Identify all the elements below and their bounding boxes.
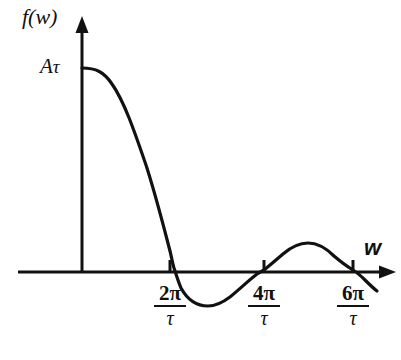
- sinc-function-figure: f(w) Aτ w 2π τ 4π τ 6π τ: [0, 0, 401, 360]
- sinc-curve: [82, 68, 377, 306]
- tick-label-2pi-over-tau: 2π τ: [138, 282, 202, 329]
- y-axis-arrow-icon: [76, 16, 89, 33]
- tick-label-denominator: τ: [232, 308, 296, 329]
- amplitude-label-tau: τ: [53, 56, 60, 77]
- y-axis-label: f(w): [22, 6, 57, 28]
- y-axis: [76, 16, 89, 272]
- tick-label-numerator: 2π: [138, 282, 202, 304]
- x-axis: [18, 266, 396, 279]
- x-axis-label: w: [364, 237, 381, 259]
- tick-label-4pi-over-tau: 4π τ: [232, 282, 296, 329]
- tick-label-numerator: 6π: [321, 282, 385, 304]
- amplitude-label-a: A: [40, 54, 53, 78]
- tick-label-6pi-over-tau: 6π τ: [321, 282, 385, 329]
- tick-label-numerator: 4π: [232, 282, 296, 304]
- tick-label-denominator: τ: [138, 308, 202, 329]
- x-axis-arrow-icon: [379, 266, 396, 279]
- tick-label-denominator: τ: [321, 308, 385, 329]
- amplitude-label: Aτ: [40, 56, 60, 77]
